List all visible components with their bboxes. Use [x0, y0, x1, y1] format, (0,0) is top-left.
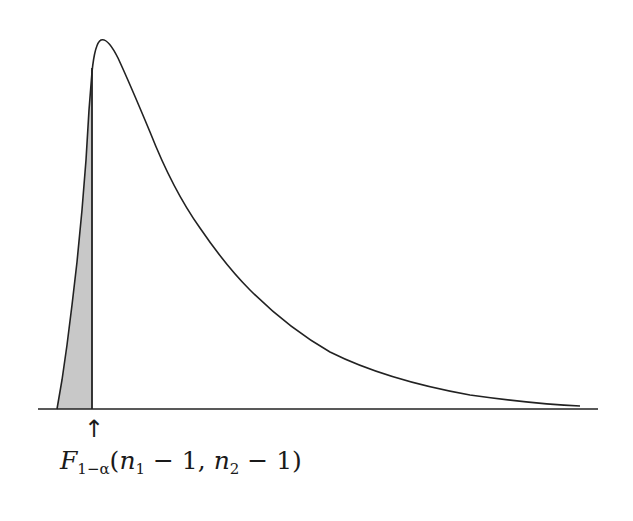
- label-arg1-sub: 1: [135, 460, 145, 478]
- density-curve: [57, 40, 580, 409]
- up-arrow-icon: ↑: [84, 415, 104, 443]
- label-arg2-var: n: [214, 446, 230, 475]
- label-symbol: F: [60, 446, 77, 475]
- label-arg1-var: n: [119, 446, 135, 475]
- label-arg1-rest: − 1,: [145, 446, 214, 475]
- shaded-left-tail: [57, 72, 92, 409]
- critical-value-label: F1−α(n1 − 1, n2 − 1): [60, 446, 302, 478]
- label-close-paren: ): [292, 446, 302, 475]
- label-subscript: 1−α: [77, 460, 109, 478]
- label-arg2-sub: 2: [230, 460, 240, 478]
- label-open-paren: (: [110, 446, 120, 475]
- label-arg2-rest: − 1: [239, 446, 292, 475]
